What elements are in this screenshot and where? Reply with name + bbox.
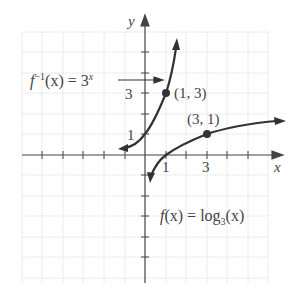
x-axis-label: x — [274, 160, 281, 175]
log-arrow-right — [274, 117, 286, 125]
y-tick-label-1: 1 — [127, 128, 135, 143]
x-tick-label-3: 3 — [202, 160, 210, 175]
log-function-label: f(x) = log3(x) — [160, 208, 244, 227]
x-tick-label-1: 1 — [162, 160, 170, 175]
point-label-3-1: (3, 1) — [187, 112, 220, 127]
log-curve — [151, 121, 276, 176]
log-arrow-down — [147, 172, 155, 183]
exp-arrow-left — [118, 144, 128, 152]
axes — [22, 15, 283, 283]
y-axis-label: y — [128, 14, 135, 29]
exp-arrow-top — [172, 38, 180, 50]
point-1-3 — [162, 89, 170, 97]
point-label-1-3: (1, 3) — [174, 86, 207, 101]
inverse-function-label: f−1(x) = 3x — [30, 72, 93, 89]
point-3-1 — [203, 130, 211, 138]
y-tick-label-3: 3 — [125, 87, 133, 102]
chart-canvas — [0, 0, 292, 290]
